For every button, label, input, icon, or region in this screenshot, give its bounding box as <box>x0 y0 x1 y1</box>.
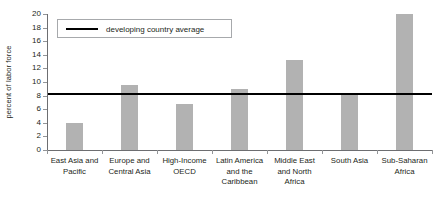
y-axis-tick-label: 20 <box>21 8 41 19</box>
y-axis-title: percent of labor force <box>2 14 16 150</box>
x-axis-category-label: East Asia and Pacific <box>47 156 102 177</box>
x-axis-tick-mark <box>102 150 103 154</box>
bar <box>341 94 358 150</box>
y-axis-tick-label: 0 <box>21 144 41 155</box>
x-axis-category-label: Sub-Saharan Africa <box>377 156 432 177</box>
y-axis-tick-mark <box>43 55 47 56</box>
bar <box>176 104 193 150</box>
bar <box>286 60 303 150</box>
y-axis-tick-mark <box>43 82 47 83</box>
y-axis-tick-label: 16 <box>21 35 41 46</box>
x-axis-category-label: Middle East and North Africa <box>267 156 322 188</box>
y-axis-tick-mark <box>43 14 47 15</box>
y-axis-tick-mark <box>43 41 47 42</box>
y-axis-tick-label: 10 <box>21 76 41 87</box>
x-axis-category-label: Latin America and the Caribbean <box>212 156 267 188</box>
x-axis-tick-mark <box>212 150 213 154</box>
bar <box>66 123 83 150</box>
y-axis-tick-label: 12 <box>21 62 41 73</box>
legend-label: developing country average <box>106 23 204 36</box>
x-axis-tick-mark <box>267 150 268 154</box>
y-axis-tick-label: 18 <box>21 22 41 33</box>
x-axis-tick-mark <box>47 150 48 154</box>
y-axis-tick-mark <box>43 68 47 69</box>
y-axis-tick-mark <box>43 28 47 29</box>
x-axis-category-label: Europe and Central Asia <box>102 156 157 177</box>
x-axis-category-label: High-Income OECD <box>157 156 212 177</box>
x-axis-category-label: South Asia <box>322 156 377 167</box>
x-axis-tick-mark <box>377 150 378 154</box>
y-axis-tick-label: 8 <box>21 90 41 101</box>
y-axis-tick-mark <box>43 96 47 97</box>
y-axis-tick-mark <box>43 123 47 124</box>
average-reference-line <box>48 93 432 95</box>
bar-chart: percent of labor force 02468101214161820… <box>0 0 438 214</box>
x-axis-line <box>47 150 432 151</box>
y-axis-tick-label: 2 <box>21 130 41 141</box>
legend-line-swatch <box>66 28 98 30</box>
y-axis-tick-label: 6 <box>21 103 41 114</box>
y-axis-tick-mark <box>43 136 47 137</box>
x-axis-tick-mark <box>157 150 158 154</box>
bar <box>231 89 248 150</box>
legend: developing country average <box>57 19 232 38</box>
x-axis-category-labels: East Asia and PacificEurope and Central … <box>47 156 432 214</box>
x-axis-tick-mark <box>432 150 433 154</box>
bar <box>396 14 413 150</box>
x-axis-tick-mark <box>322 150 323 154</box>
y-axis-tick-label: 14 <box>21 49 41 60</box>
y-axis-tick-label: 4 <box>21 117 41 128</box>
y-axis-tick-mark <box>43 109 47 110</box>
y-axis-line <box>47 14 48 150</box>
